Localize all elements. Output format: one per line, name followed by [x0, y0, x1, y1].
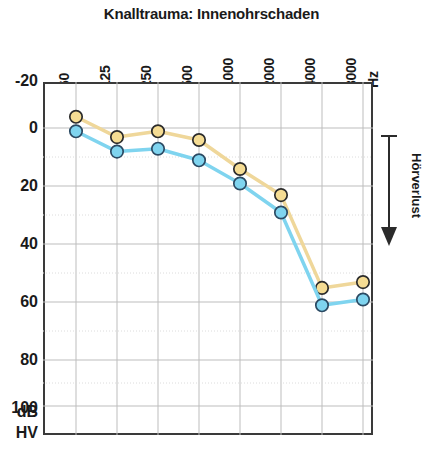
audiogram-chart: Knalltrauma: Innenohrschaden 60 125 250 …	[0, 0, 423, 449]
y-tick-label: 0	[0, 119, 38, 137]
y-tick-label: 40	[0, 235, 38, 253]
chart-title: Knalltrauma: Innenohrschaden	[0, 5, 423, 22]
y-tick-label: 20	[0, 177, 38, 195]
plot-area	[43, 82, 373, 435]
y-tick-label: -20	[0, 72, 38, 90]
y-tick-label: 80	[0, 351, 38, 369]
y-axis-unit-line1: dB	[0, 403, 38, 421]
hoerverlust-arrow-icon	[376, 134, 402, 248]
y-axis-unit-line2: HV	[0, 424, 38, 442]
y-tick-label: 60	[0, 293, 38, 311]
hoerverlust-annotation-label: Hörverlust	[409, 153, 423, 218]
